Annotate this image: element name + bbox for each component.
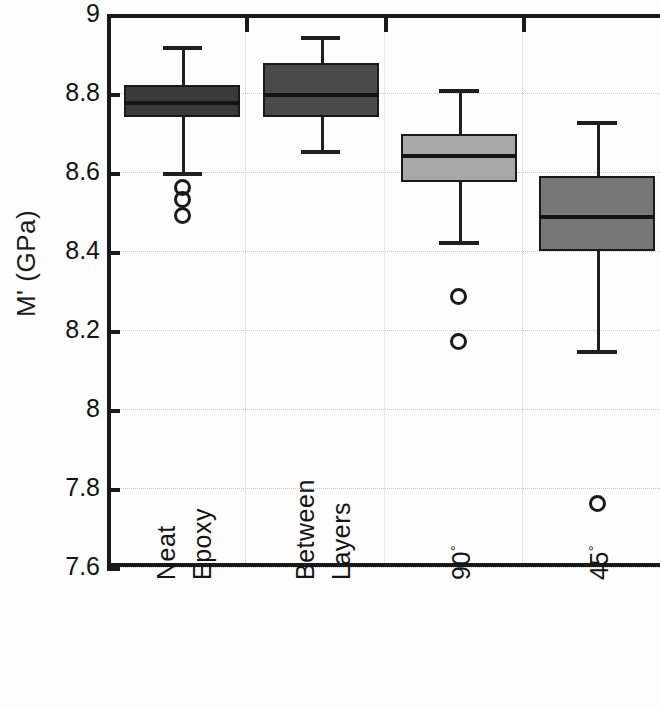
y-tick-mark — [107, 251, 120, 255]
x-tick-mark — [245, 14, 249, 32]
y-tick-mark — [107, 488, 120, 492]
y-tick-label: 9 — [28, 1, 100, 26]
plot-area — [107, 14, 660, 567]
y-tick-mark — [107, 567, 120, 571]
box-plot-group — [107, 14, 660, 567]
y-tick-mark — [107, 172, 120, 176]
outlier-marker — [589, 495, 606, 512]
y-tick-mark — [107, 14, 120, 18]
x-tick-label: 45° — [585, 545, 614, 580]
y-tick-label: 8.2 — [28, 317, 100, 342]
y-tick-mark — [107, 330, 120, 334]
x-tick-label: Between — [291, 479, 320, 580]
whisker-cap — [577, 350, 616, 354]
y-tick-label: 8 — [28, 396, 100, 421]
x-tick-label: Neat — [152, 525, 181, 580]
y-tick-mark — [107, 409, 120, 413]
box — [539, 176, 655, 251]
y-tick-label: 8.8 — [28, 80, 100, 105]
y-tick-mark — [107, 93, 120, 97]
y-axis-tick-labels: 98.88.68.48.287.87.6 — [20, 0, 100, 709]
median-line — [539, 215, 655, 219]
x-tick-label: 90° — [447, 545, 476, 580]
whisker-cap — [577, 121, 616, 125]
x-tick-label: Layers — [327, 502, 356, 580]
x-tick-mark — [384, 14, 388, 32]
y-tick-label: 8.6 — [28, 159, 100, 184]
x-axis-tick-labels: NeatEpoxyBetweenLayers90°45° — [107, 572, 660, 709]
y-tick-label: 7.6 — [28, 554, 100, 579]
y-tick-label: 7.8 — [28, 475, 100, 500]
x-tick-mark — [522, 14, 526, 32]
y-tick-label: 8.4 — [28, 238, 100, 263]
box-plot-figure: M' (GPa) 98.88.68.48.287.87.6 NeatEpoxyB… — [0, 0, 660, 709]
x-tick-label: Epoxy — [188, 508, 217, 580]
